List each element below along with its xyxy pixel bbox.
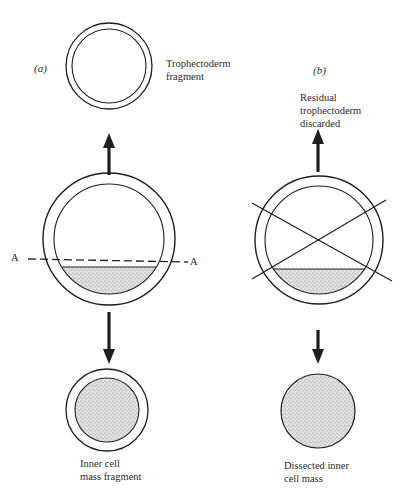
inner-cell-mass-fragment-label-line1: Inner cell bbox=[80, 458, 120, 471]
cut-line-label-right: A bbox=[190, 256, 198, 269]
residual-trophectoderm-label-line2: trophectoderm bbox=[300, 105, 361, 118]
inner-cell-mass-fragment-shape bbox=[66, 369, 148, 451]
dissected-inner-cell-mass-shape bbox=[281, 374, 355, 448]
dissected-inner-cell-mass-label-line1: Dissected inner bbox=[284, 460, 349, 473]
blastocyst-b-shape bbox=[250, 176, 390, 309]
inner-cell-mass-fragment-label-line2: mass fragment bbox=[80, 471, 142, 484]
panel-a bbox=[28, 23, 188, 451]
panel-a-label: (a) bbox=[34, 62, 47, 75]
arrow-down-icon bbox=[103, 312, 115, 364]
panel-b-label: (b) bbox=[313, 64, 326, 77]
trophectoderm-fragment-shape bbox=[66, 23, 152, 109]
residual-trophectoderm-label-line3: discarded bbox=[300, 118, 340, 131]
arrow-down-icon bbox=[312, 330, 324, 364]
residual-trophectoderm-label-line1: Residual bbox=[300, 92, 337, 105]
cut-line-label-left: A bbox=[11, 252, 19, 265]
trophectoderm-fragment-label-line1: Trophectoderm bbox=[166, 58, 230, 71]
panel-b bbox=[250, 129, 392, 448]
arrow-up-icon bbox=[103, 133, 115, 175]
arrow-up-icon bbox=[312, 129, 324, 172]
dissected-inner-cell-mass-label-line2: cell mass bbox=[284, 473, 323, 486]
trophectoderm-fragment-label-line2: fragment bbox=[166, 71, 204, 84]
cut-line-a-a bbox=[28, 259, 188, 262]
blastocyst-a-shape bbox=[40, 173, 180, 307]
